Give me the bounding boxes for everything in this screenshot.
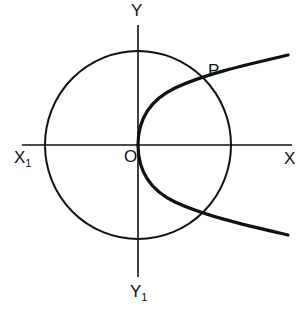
point-p-label: P — [208, 61, 219, 80]
origin-label: O — [124, 147, 137, 166]
y-axis-label: Y — [131, 1, 142, 20]
y1-axis-label: Y1 — [130, 282, 147, 303]
x-axis-label: X — [284, 149, 295, 168]
circle-parabola-diagram: Y X1 O X Y1 P — [0, 0, 305, 316]
x1-axis-label: X1 — [14, 148, 31, 169]
parabola-lower-branch — [138, 145, 288, 235]
